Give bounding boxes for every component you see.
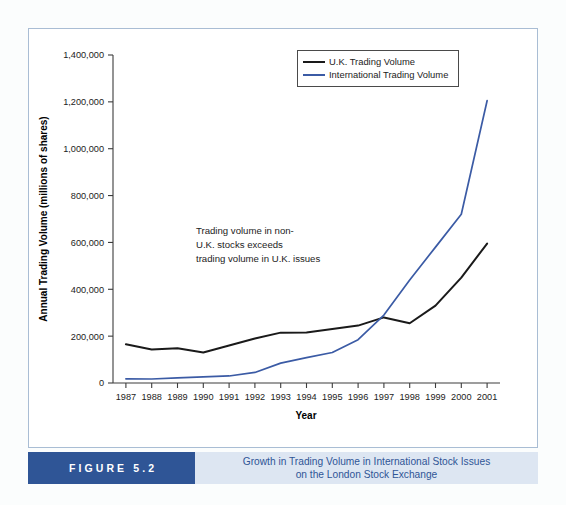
figure-caption-line-2: on the London Stock Exchange (296, 468, 438, 481)
legend-swatch-international-icon (303, 74, 325, 76)
figure-caption-banner: Growth in Trading Volume in Internationa… (195, 452, 538, 484)
legend-label-uk: U.K. Trading Volume (329, 56, 415, 68)
figure-number-block: FIGURE 5.2 (28, 452, 195, 484)
figure-caption-line-1: Growth in Trading Volume in Internationa… (243, 455, 490, 468)
legend-swatch-uk-icon (303, 61, 325, 63)
figure-caption-bar: FIGURE 5.2 Growth in Trading Volume in I… (28, 452, 538, 484)
legend-item-international-trading-volume: International Trading Volume (303, 68, 452, 81)
legend-item-uk-trading-volume: U.K. Trading Volume (303, 55, 452, 68)
chart-legend: U.K. Trading Volume International Tradin… (297, 50, 459, 87)
legend-label-international: International Trading Volume (329, 69, 448, 81)
figure-frame (28, 28, 538, 448)
